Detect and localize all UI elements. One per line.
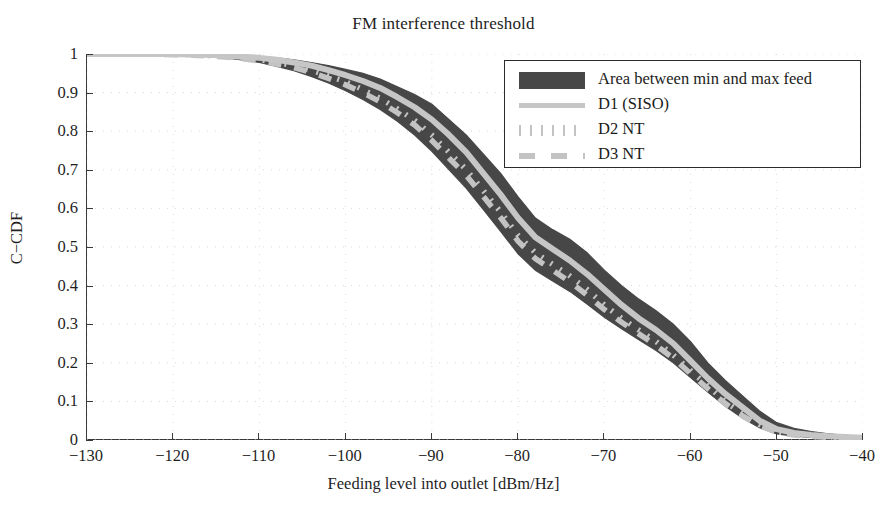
x-tick-mark [862, 433, 863, 440]
x-axis-title: Feeding level into outlet [dBm/Hz] [0, 474, 887, 494]
legend-item: D1 (SISO) [505, 92, 860, 117]
x-tick-label: −110 [242, 446, 275, 466]
x-tick-mark [603, 433, 604, 440]
x-tick-label: −50 [763, 446, 789, 466]
x-tick-label: −40 [849, 446, 875, 466]
legend: Area between min and max feed D1 (SISO) … [504, 60, 861, 168]
chart-root: FM interference threshold 00.10.20.30.40… [0, 0, 887, 520]
legend-label: Area between min and max feed [598, 71, 812, 88]
x-tick-label: −80 [504, 446, 530, 466]
x-tick-label: −100 [328, 446, 362, 466]
x-tick-label: −130 [69, 446, 103, 466]
y-axis-title: C−CDF [7, 153, 27, 323]
legend-swatch-dashed-line-icon [519, 145, 585, 165]
legend-label: D3 NT [598, 146, 644, 163]
legend-item: D2 NT [505, 117, 860, 142]
x-tick-mark [86, 433, 87, 440]
legend-swatch-area-patch-icon [519, 70, 585, 90]
x-tick-mark [345, 433, 346, 440]
x-tick-mark [258, 433, 259, 440]
legend-label: D1 (SISO) [598, 96, 669, 113]
x-tick-mark [172, 433, 173, 440]
x-tick-label: −120 [155, 446, 189, 466]
legend-item: Area between min and max feed [505, 67, 860, 92]
legend-swatch-dotted-line-icon [519, 120, 585, 140]
x-tick-mark [431, 433, 432, 440]
legend-item: D3 NT [505, 142, 860, 167]
x-tick-label: −70 [590, 446, 616, 466]
x-tick-mark [690, 433, 691, 440]
legend-label: D2 NT [598, 121, 644, 138]
legend-swatch-solid-line-icon [519, 95, 585, 115]
x-tick-label: −60 [677, 446, 703, 466]
x-tick-mark [776, 433, 777, 440]
x-tick-mark [517, 433, 518, 440]
x-tick-label: −90 [418, 446, 444, 466]
